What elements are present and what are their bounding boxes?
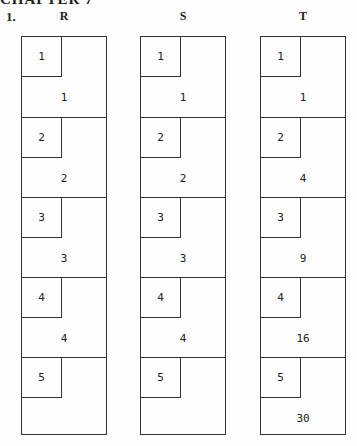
cell-index-box: 1 xyxy=(261,37,301,77)
cell-value xyxy=(141,398,225,438)
cell-value xyxy=(22,398,106,438)
cell-index-box: 3 xyxy=(261,198,301,238)
cell-index-box: 2 xyxy=(141,118,181,158)
chapter-heading: CHAPTER 7 xyxy=(0,0,94,8)
cell-index-box: 2 xyxy=(261,118,301,158)
cell-value: 1 xyxy=(261,77,345,117)
cell-value: 2 xyxy=(22,158,106,198)
cell-index-box: 4 xyxy=(22,278,62,318)
cell-value: 1 xyxy=(141,77,225,117)
cell-section: 11 xyxy=(261,37,345,117)
column-label-t: T xyxy=(293,9,313,24)
cell-value: 4 xyxy=(261,158,345,198)
question-number: 1. xyxy=(6,9,16,25)
cell-section: 33 xyxy=(141,197,225,277)
cell-index-box: 5 xyxy=(22,358,62,398)
cell-section: 5 xyxy=(22,357,106,437)
memory-column-t: 112439416530 xyxy=(260,36,346,435)
cell-section: 44 xyxy=(141,277,225,357)
cell-section: 416 xyxy=(261,277,345,357)
cell-value: 3 xyxy=(141,238,225,278)
column-label-s: S xyxy=(173,9,193,24)
cell-value: 16 xyxy=(261,318,345,358)
cell-section: 530 xyxy=(261,357,345,437)
cell-section: 33 xyxy=(22,197,106,277)
cell-section: 44 xyxy=(22,277,106,357)
cell-section: 22 xyxy=(141,117,225,197)
cell-section: 39 xyxy=(261,197,345,277)
memory-column-r: 112233445 xyxy=(21,36,107,435)
cell-index-box: 3 xyxy=(141,198,181,238)
cell-value: 9 xyxy=(261,238,345,278)
cell-value: 4 xyxy=(141,318,225,358)
cell-index-box: 2 xyxy=(22,118,62,158)
column-label-r: R xyxy=(54,9,74,24)
cell-index-box: 1 xyxy=(141,37,181,77)
cell-value: 1 xyxy=(22,77,106,117)
cell-section: 11 xyxy=(22,37,106,117)
cell-value: 30 xyxy=(261,398,345,438)
cell-index-box: 1 xyxy=(22,37,62,77)
cell-section: 24 xyxy=(261,117,345,197)
cell-value: 4 xyxy=(22,318,106,358)
memory-column-s: 112233445 xyxy=(140,36,226,435)
cell-index-box: 4 xyxy=(141,278,181,318)
cell-index-box: 5 xyxy=(261,358,301,398)
cell-index-box: 5 xyxy=(141,358,181,398)
cell-value: 2 xyxy=(141,158,225,198)
cell-section: 5 xyxy=(141,357,225,437)
cell-section: 22 xyxy=(22,117,106,197)
cell-value: 3 xyxy=(22,238,106,278)
cell-index-box: 3 xyxy=(22,198,62,238)
cell-section: 11 xyxy=(141,37,225,117)
cell-index-box: 4 xyxy=(261,278,301,318)
